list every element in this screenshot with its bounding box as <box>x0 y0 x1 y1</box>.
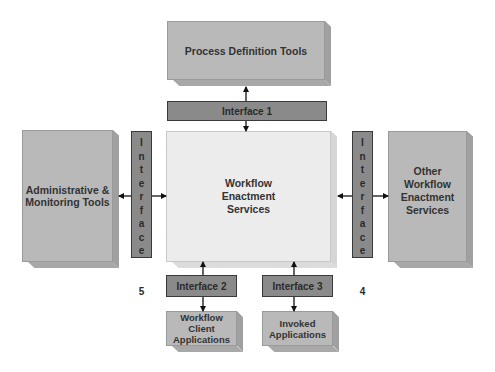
connector-arrows <box>0 0 495 372</box>
